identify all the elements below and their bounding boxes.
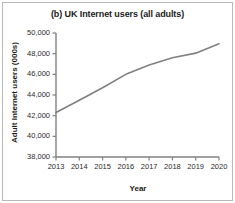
data-series-line [56,44,219,113]
chart-figure: (b) UK Internet users (all adults) Adult… [0,0,235,203]
axis-lines [56,33,219,157]
plot-area [0,0,235,203]
